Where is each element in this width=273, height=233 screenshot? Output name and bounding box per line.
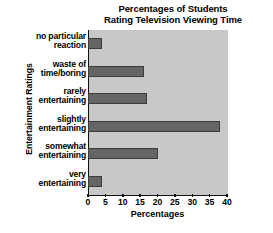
chart-title: Percentages of Students Rating Televisio… [78,3,268,25]
bar [88,38,102,49]
y-category-waste-of-time-boring: waste of time/boring [8,60,86,79]
y-category-rarely-entertaining: rarely entertaining [8,87,86,106]
bar-row [88,30,227,58]
x-tick-label: 40 [215,197,239,207]
bar-row [88,58,227,86]
bar-row [88,113,227,141]
x-axis-ticks: 0510152025303540 [88,197,227,209]
bar [88,66,144,77]
bar [88,148,158,159]
y-category-somewhat-entertaining: somewhat entertaining [8,142,86,161]
bar-row [88,168,227,196]
x-axis-title: Percentages [88,209,227,219]
bar-row [88,85,227,113]
chart-title-line-2: Rating Television Viewing Time [78,14,268,25]
y-category-very-entertaining: very entertaining [8,170,86,189]
bar-row [88,140,227,168]
chart-title-line-1: Percentages of Students [78,3,268,14]
bar [88,93,147,104]
bar [88,121,220,132]
y-axis-category-labels: no particular reaction waste of time/bor… [4,30,86,195]
y-category-slightly-entertaining: slightly entertaining [8,115,86,134]
bar-chart: Percentages of Students Rating Televisio… [0,0,273,233]
y-category-no-particular-reaction: no particular reaction [8,32,86,51]
bars-layer [88,30,227,195]
bar [88,176,102,187]
